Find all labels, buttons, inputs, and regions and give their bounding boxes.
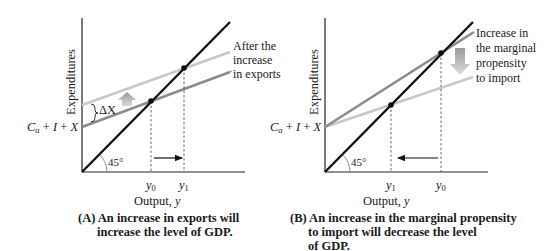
original-ae-line bbox=[82, 72, 230, 127]
equilibrium-point-y0 bbox=[148, 98, 154, 104]
tick-label-y1: y1 bbox=[384, 178, 396, 193]
caption-line-1: An increase in exports will bbox=[98, 211, 239, 225]
angle-label: 45° bbox=[351, 156, 366, 168]
angle-label: 45° bbox=[108, 156, 123, 168]
caption-b: (B) An increase in the marginal propensi… bbox=[290, 211, 517, 251]
equilibrium-point-y0 bbox=[438, 50, 444, 56]
shift-up-arrow-icon bbox=[118, 92, 136, 106]
caption-line-2: increase the level of GDP. bbox=[78, 225, 239, 239]
caption-tag: (A) bbox=[78, 211, 95, 225]
annotation-line-4: to import bbox=[476, 71, 521, 85]
equilibrium-point-y1 bbox=[181, 65, 187, 71]
new-ae-line bbox=[325, 77, 473, 127]
y-axis-label: Expenditures bbox=[64, 49, 78, 115]
angle-arc bbox=[100, 155, 108, 173]
brace-icon bbox=[91, 104, 98, 122]
tick-label-y0: y0 bbox=[434, 178, 446, 193]
annotation-line-3: in exports bbox=[233, 67, 281, 81]
annotation-line-1: After the bbox=[233, 39, 276, 53]
angle-arc bbox=[343, 155, 351, 173]
caption-line-2: to import will decrease the level bbox=[290, 225, 517, 239]
y-axis-label: Expenditures bbox=[307, 49, 321, 115]
x-axis-label: Output, y bbox=[363, 194, 410, 208]
intercept-label: Ca + I + X bbox=[27, 120, 79, 135]
x-axis-label: Output, y bbox=[134, 194, 181, 208]
caption-line-3: of GDP. bbox=[290, 239, 517, 251]
annotation-leader bbox=[230, 71, 232, 72]
annotation-line-3: propensity bbox=[476, 56, 527, 70]
caption-line-1: An increase in the marginal propensity bbox=[309, 211, 517, 225]
annotation-line-2: increase bbox=[233, 53, 272, 67]
forty-five-degree-line bbox=[325, 22, 473, 172]
caption-a: (A) An increase in exports will increase… bbox=[78, 211, 239, 239]
caption-tag: (B) bbox=[290, 211, 307, 225]
original-ae-line bbox=[325, 32, 474, 127]
tick-label-y0: y0 bbox=[144, 178, 156, 193]
intercept-label: Ca + I + X bbox=[270, 120, 322, 135]
annotation-line-2: the marginal bbox=[476, 41, 537, 55]
annotation-line-1: Increase in bbox=[476, 26, 528, 40]
delta-x-label: ΔX bbox=[99, 103, 116, 117]
shift-down-arrow-icon bbox=[450, 48, 470, 75]
panel-a bbox=[82, 18, 245, 172]
tick-label-y1: y1 bbox=[177, 178, 189, 193]
equilibrium-point-y1 bbox=[388, 102, 394, 108]
panel-b bbox=[325, 18, 488, 172]
